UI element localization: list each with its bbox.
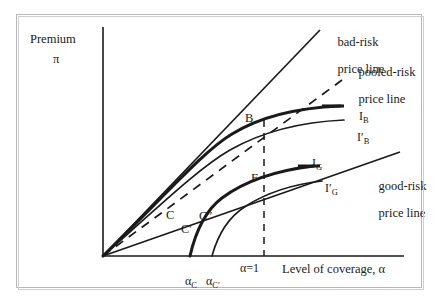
curve-label-IBprime-main: I′ <box>357 130 364 144</box>
point-label-C-prime: C′ <box>181 223 192 237</box>
good-risk-price-line-label: good-risk price line <box>366 166 426 234</box>
y-axis-title: Premium <box>30 33 76 47</box>
tick-label-alpha-C-prime: αC′ <box>194 262 220 303</box>
good-risk-price-line <box>103 152 400 256</box>
point-label-C: C <box>166 209 174 223</box>
good-risk-line-1: good-risk <box>379 179 427 193</box>
tick-alpha-Cprime-sub: C′ <box>212 280 220 290</box>
point-label-B: B <box>245 112 253 126</box>
curve-label-IGprime-main: I′ <box>325 181 332 195</box>
pooled-risk-line-1: pooled-risk <box>359 65 416 79</box>
figure-root: Premium π bad-risk price line pooled-ris… <box>0 0 448 308</box>
x-axis-title: Level of coverage, α <box>282 263 385 277</box>
bad-risk-line-1: bad-risk <box>338 35 379 49</box>
curve-label-IBprime-sub: B <box>364 136 370 146</box>
good-risk-line-2: price line <box>379 206 426 220</box>
y-axis-symbol: π <box>53 53 59 67</box>
point-label-F: F <box>251 172 258 186</box>
curve-label-IB-prime: I′B <box>345 118 369 159</box>
curve-label-IG-prime: I′G <box>313 169 338 210</box>
curve-label-IGprime-sub: G <box>332 187 338 197</box>
tick-label-alpha-equals-one: α=1 <box>240 262 259 275</box>
point-label-C-double-prime: C″ <box>199 210 213 224</box>
